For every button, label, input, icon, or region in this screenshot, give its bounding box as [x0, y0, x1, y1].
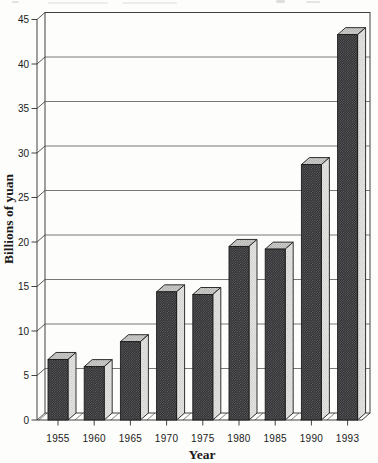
y-tick-label-35: 35 — [18, 103, 30, 114]
bar-side-face — [285, 242, 293, 420]
y-tick-depth-line-10 — [37, 324, 45, 331]
bar-1985 — [265, 242, 293, 420]
bar-front-face — [157, 292, 177, 420]
bar-side-face — [140, 335, 148, 420]
bar-front-face — [48, 359, 68, 420]
x-tick-label-1985: 1985 — [263, 433, 287, 444]
bar-side-face — [68, 352, 76, 420]
y-tick-label-5: 5 — [23, 370, 29, 381]
y-tick-depth-line-45 — [37, 13, 45, 20]
y-tick-label-30: 30 — [18, 148, 30, 159]
bar-side-face — [104, 360, 112, 420]
bar-chart-svg: 0510152025303540451955196019651970197519… — [0, 0, 378, 463]
bar-side-face — [177, 285, 185, 420]
bar-front-face — [338, 35, 358, 420]
bar-chart-figure: 0510152025303540451955196019651970197519… — [0, 0, 378, 463]
y-tick-label-15: 15 — [18, 281, 30, 292]
bar-1955 — [48, 352, 76, 420]
bar-front-face — [120, 342, 140, 420]
y-tick-depth-line-20 — [37, 235, 45, 242]
x-tick-label-1965: 1965 — [119, 433, 143, 444]
bar-1965 — [120, 335, 148, 420]
bar-1960 — [84, 360, 112, 420]
scanned-book-figure-page: 0510152025303540451955196019651970197519… — [0, 0, 378, 463]
y-tick-depth-line-15 — [37, 280, 45, 287]
bar-side-face — [249, 239, 257, 420]
bar-front-face — [84, 367, 104, 420]
x-axis-title: Year — [189, 447, 216, 462]
x-tick-label-1955: 1955 — [46, 433, 70, 444]
y-tick-label-45: 45 — [18, 14, 30, 25]
bar-side-face — [321, 158, 329, 420]
bar-1970 — [157, 285, 185, 420]
bar-1975 — [193, 288, 221, 420]
x-tick-label-1980: 1980 — [227, 433, 251, 444]
y-tick-label-0: 0 — [23, 415, 29, 426]
y-tick-depth-line-25 — [37, 191, 45, 198]
bar-front-face — [301, 165, 321, 420]
x-tick-label-1990: 1990 — [300, 433, 324, 444]
x-tick-label-1975: 1975 — [191, 433, 215, 444]
bar-1990 — [301, 158, 329, 420]
bar-side-face — [213, 288, 221, 420]
y-tick-label-40: 40 — [18, 59, 30, 70]
x-tick-label-1960: 1960 — [82, 433, 106, 444]
y-tick-depth-line-5 — [37, 369, 45, 376]
bar-front-face — [193, 295, 213, 420]
y-tick-label-10: 10 — [18, 326, 30, 337]
bar-front-face — [229, 246, 249, 420]
y-axis-title: Billions of yuan — [1, 173, 16, 264]
bar-side-face — [358, 28, 366, 420]
bar-1993 — [338, 28, 366, 420]
y-tick-label-25: 25 — [18, 192, 30, 203]
y-tick-depth-line-0 — [37, 413, 45, 420]
y-tick-label-20: 20 — [18, 237, 30, 248]
bar-1980 — [229, 239, 257, 420]
bar-front-face — [265, 249, 285, 420]
y-tick-depth-line-35 — [37, 102, 45, 109]
x-tick-label-1970: 1970 — [155, 433, 179, 444]
y-tick-depth-line-40 — [37, 57, 45, 64]
x-tick-label-1993: 1993 — [336, 433, 360, 444]
y-tick-depth-line-30 — [37, 146, 45, 153]
